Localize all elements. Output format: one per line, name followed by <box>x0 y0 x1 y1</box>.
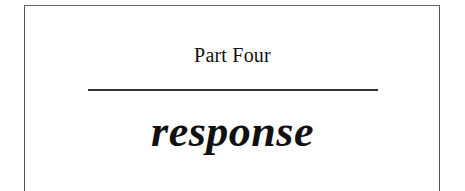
horizontal-rule <box>88 89 378 91</box>
page-frame <box>24 5 440 191</box>
part-label: Part Four <box>0 44 465 67</box>
section-title: response <box>0 106 465 157</box>
